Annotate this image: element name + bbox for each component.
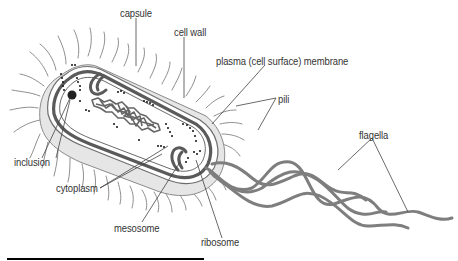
- cell-illustration: [0, 0, 458, 261]
- label-ribosome: ribosome: [201, 237, 239, 248]
- label-pili: pili: [278, 94, 289, 105]
- label-cell-wall: cell wall: [174, 27, 206, 38]
- label-inclusion: inclusion: [14, 157, 50, 168]
- bacterial-cell-diagram: capsule cell wall plasma (cell surface) …: [0, 0, 458, 261]
- label-mesosome: mesosome: [114, 223, 160, 234]
- label-plasma-membrane: plasma (cell surface) membrane: [216, 56, 348, 67]
- label-cytoplasm: cytoplasm: [56, 183, 98, 194]
- inclusion-body: [68, 91, 77, 100]
- flagella-strands: [206, 162, 452, 228]
- label-flagella: flagella: [359, 130, 388, 141]
- label-capsule: capsule: [120, 8, 152, 19]
- capsule-layer: [40, 65, 225, 196]
